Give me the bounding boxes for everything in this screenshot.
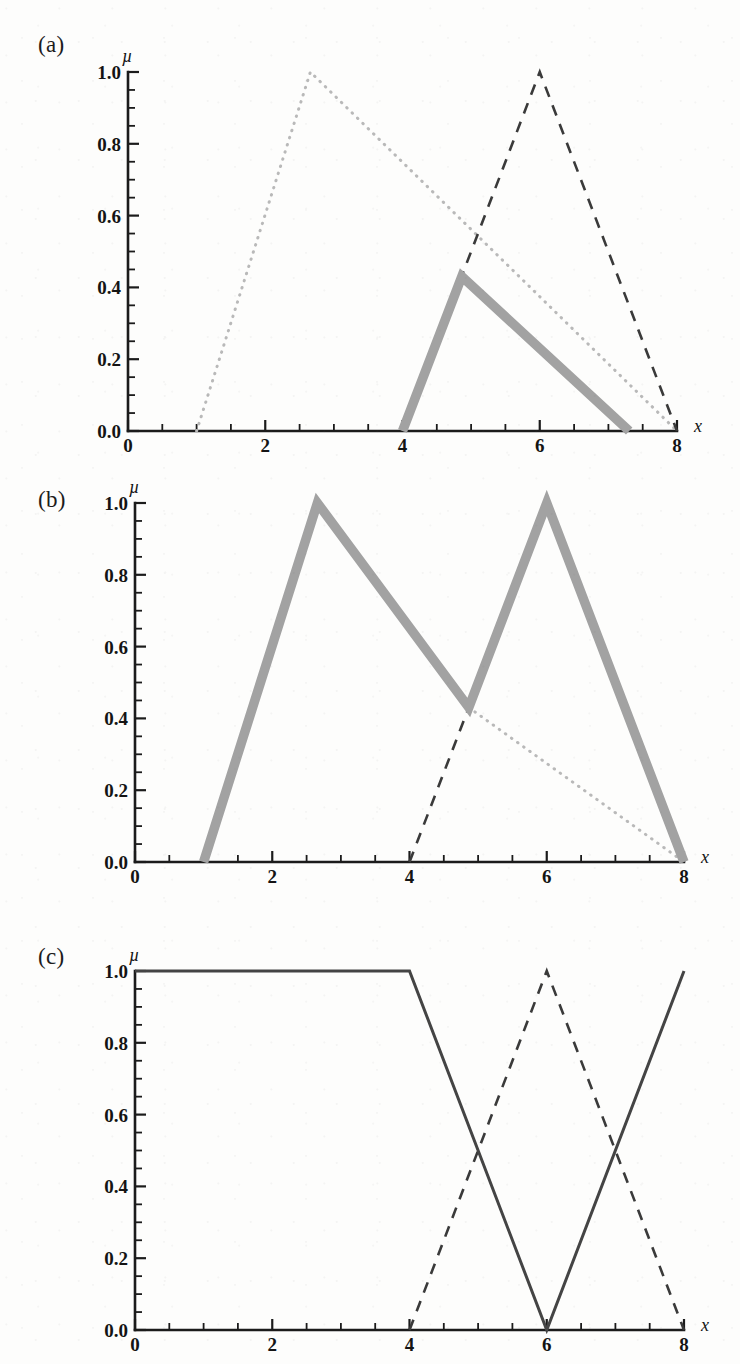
panel-a: (a) <box>0 0 740 454</box>
figure-root: (a) <box>0 0 740 1364</box>
x-ticklabel: 0 <box>130 1334 140 1355</box>
x-ticklabel: 2 <box>268 1334 278 1355</box>
x-ticklabel: 4 <box>405 1334 415 1355</box>
x-ticklabel: 8 <box>679 866 689 887</box>
y-ticklabel: 0.8 <box>104 565 128 586</box>
panel-c-y-ticks <box>135 971 146 1330</box>
y-ticklabel: 0.4 <box>104 708 128 729</box>
x-ticklabel: 0 <box>123 435 133 454</box>
x-ticklabel: 2 <box>261 435 271 454</box>
x-ticklabel: 2 <box>268 866 278 887</box>
y-ticklabel: 0.4 <box>97 277 121 298</box>
y-ticklabel: 0.4 <box>104 1176 128 1197</box>
panel-c-axes <box>135 971 684 1330</box>
x-ticklabel: 6 <box>542 866 552 887</box>
y-ticklabel: 1.0 <box>104 961 128 982</box>
x-axis-label-x: x <box>693 416 702 436</box>
panel-a-axes <box>128 72 677 431</box>
y-ticklabel: 1.0 <box>104 493 128 514</box>
curve-set-b-dashed <box>403 72 678 431</box>
y-ticklabel: 0.0 <box>104 852 128 873</box>
y-ticklabel: 0.8 <box>104 1033 128 1054</box>
y-ticklabel: 0.0 <box>97 421 121 442</box>
y-ticklabel: 0.6 <box>104 1105 128 1126</box>
x-ticklabel: 6 <box>542 1334 552 1355</box>
panel-c-plot: 0.0 0.2 0.4 0.6 0.8 1.0 0 2 4 6 8 µ x <box>0 912 740 1364</box>
x-axis-label-x: x <box>700 847 709 867</box>
y-ticklabel: 1.0 <box>97 62 121 83</box>
x-ticklabel: 8 <box>679 1334 689 1355</box>
y-axis-label-mu: µ <box>122 46 132 66</box>
panel-b-x-ticklabels: 0 2 4 6 8 <box>130 866 689 887</box>
panel-b-y-ticklabels: 0.0 0.2 0.4 0.6 0.8 1.0 <box>104 493 128 873</box>
curve-complement-solid <box>135 971 684 1330</box>
curve-set-b-dashed <box>410 971 685 1330</box>
curve-set-a-dotted <box>197 72 677 431</box>
x-ticklabel: 4 <box>405 866 415 887</box>
panel-c-y-ticklabels: 0.0 0.2 0.4 0.6 0.8 1.0 <box>104 961 128 1341</box>
panel-c-x-ticklabels: 0 2 4 6 8 <box>130 1334 689 1355</box>
panel-b-y-ticks <box>135 503 146 862</box>
y-ticklabel: 0.2 <box>104 1248 128 1269</box>
panel-b: (b) <box>0 455 740 909</box>
panel-b-plot: 0.0 0.2 0.4 0.6 0.8 1.0 0 2 4 6 8 µ x <box>0 455 740 909</box>
y-ticklabel: 0.2 <box>97 349 121 370</box>
y-ticklabel: 0.8 <box>97 134 121 155</box>
panel-c: (c) <box>0 912 740 1364</box>
curve-union-thick-gray <box>204 503 684 862</box>
y-ticklabel: 0.2 <box>104 780 128 801</box>
x-axis-label-x: x <box>700 1315 709 1335</box>
y-axis-label-mu: µ <box>129 945 139 965</box>
x-ticklabel: 0 <box>130 866 140 887</box>
curve-intersection-thick-gray <box>403 277 630 432</box>
curve-set-b-dashed <box>410 708 469 863</box>
x-ticklabel: 6 <box>535 435 545 454</box>
panel-a-plot: 0.0 0.2 0.4 0.6 0.8 1.0 0 2 4 6 8 µ x <box>0 0 740 454</box>
panel-a-x-ticklabels: 0 2 4 6 8 <box>123 435 682 454</box>
y-ticklabel: 0.6 <box>104 637 128 658</box>
x-ticklabel: 8 <box>672 435 682 454</box>
y-axis-label-mu: µ <box>129 477 139 497</box>
y-ticklabel: 0.0 <box>104 1320 128 1341</box>
y-ticklabel: 0.6 <box>97 206 121 227</box>
panel-a-y-ticks <box>128 72 139 431</box>
x-ticklabel: 4 <box>398 435 408 454</box>
panel-a-y-ticklabels: 0.0 0.2 0.4 0.6 0.8 1.0 <box>97 62 121 442</box>
